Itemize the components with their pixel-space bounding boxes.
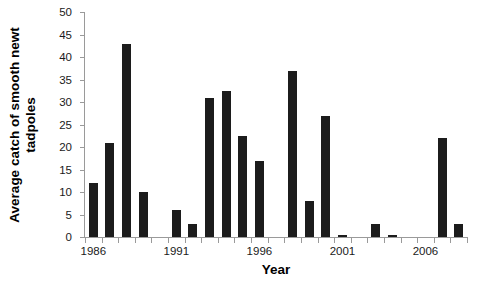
y-axis-tick-label: 30 [59,96,72,108]
y-axis-tick: 45 [80,35,84,36]
x-axis-tick-label: 1996 [247,245,273,257]
y-axis-tick-label: 35 [59,74,72,86]
x-axis-tick [135,238,136,243]
plot-area: 05101520253035404550 1986199119962001200… [85,12,467,237]
x-axis-tick [434,238,435,243]
x-axis-tick [251,238,252,243]
x-axis-tick [384,238,385,243]
x-axis-tick [85,238,86,243]
bar [222,91,231,237]
x-axis-tick [367,238,368,243]
y-axis-title-container: Average catch of smooth newt tadpoles [0,0,46,250]
x-axis-tick [268,238,269,243]
y-axis-tick: 50 [80,12,84,13]
x-axis-tick [218,238,219,243]
y-axis-tick-label: 0 [66,231,72,243]
y-axis-tick: 40 [80,57,84,58]
y-axis-tick-label: 40 [59,51,72,63]
x-axis-tick [417,238,418,243]
x-axis-tick-label: 2001 [330,245,356,257]
x-axis-tick [102,238,103,243]
bar [371,224,380,238]
bar [305,201,314,237]
y-axis-tick-label: 25 [59,119,72,131]
x-axis-line [84,237,468,238]
y-axis-tick-label: 20 [59,141,72,153]
bar [321,116,330,238]
y-axis-tick: 5 [80,215,84,216]
x-axis-tick [185,238,186,243]
bar [288,71,297,238]
x-axis-tick-label: 2006 [413,245,439,257]
x-axis-tick [168,238,169,243]
x-axis-tick [318,238,319,243]
x-axis-title: Year [85,262,467,277]
bar [338,235,347,237]
x-axis-tick [201,238,202,243]
x-axis-tick [334,238,335,243]
y-axis-title-line-2: tadpoles [23,27,39,222]
y-axis-tick-label: 5 [66,209,72,221]
y-axis-tick-label: 10 [59,186,72,198]
x-axis-tick-label: 1986 [81,245,107,257]
bar [238,136,247,237]
x-axis-tick [151,238,152,243]
y-axis-title: Average catch of smooth newt tadpoles [7,27,39,222]
x-axis-tick [284,238,285,243]
y-axis-tick: 15 [80,170,84,171]
y-axis-title-line-1: Average catch of smooth newt [7,27,22,222]
bar-chart-figure: Average catch of smooth newt tadpoles 05… [0,0,481,298]
y-axis-tick-label: 15 [59,164,72,176]
x-axis-tick-label: 1991 [164,245,190,257]
x-axis-tick [118,238,119,243]
y-axis-tick: 25 [80,125,84,126]
bar [89,183,98,237]
bar [255,161,264,238]
bar [205,98,214,238]
bar [388,235,397,237]
y-axis-tick-label: 45 [59,29,72,41]
x-axis-tick [401,238,402,243]
y-axis-line [84,12,85,238]
y-axis-tick: 30 [80,102,84,103]
bar [105,143,114,238]
bar [438,138,447,237]
x-axis-tick [234,238,235,243]
bar [172,210,181,237]
x-axis-tick [351,238,352,243]
bar [122,44,131,238]
y-axis-tick-label: 50 [59,6,72,18]
bar [454,224,463,238]
x-axis-tick [301,238,302,243]
y-axis-tick: 0 [80,237,84,238]
bar [139,192,148,237]
y-axis-tick: 35 [80,80,84,81]
x-axis-tick [467,238,468,243]
y-axis-tick: 10 [80,192,84,193]
bar [188,224,197,238]
x-axis-tick [450,238,451,243]
y-axis-tick: 20 [80,147,84,148]
